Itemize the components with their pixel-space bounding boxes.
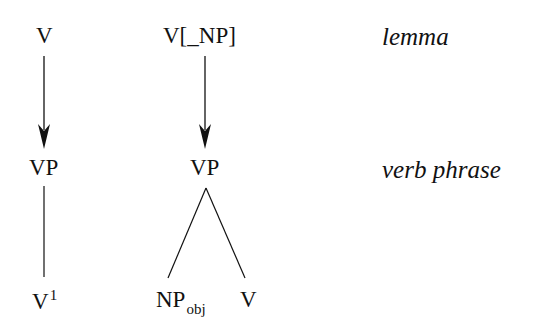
node-text: NP: [156, 287, 185, 312]
row-label-verb-phrase: verb phrase: [382, 157, 501, 182]
node-text: VP: [190, 155, 219, 180]
node-left-bottom: V1: [32, 288, 57, 313]
node-text: V: [32, 289, 49, 314]
node-superscript: 1: [50, 287, 58, 303]
node-mid-bottom-npobj: NPobj: [156, 288, 206, 317]
node-mid-bottom-v: V: [240, 288, 257, 311]
node-text: V: [36, 23, 53, 48]
node-text: VP: [29, 155, 58, 180]
node-left-middle: VP: [29, 156, 58, 179]
node-mid-top: V[_NP]: [163, 24, 236, 47]
node-text: V[_NP]: [163, 23, 236, 48]
row-label-lemma: lemma: [382, 24, 449, 49]
node-mid-middle: VP: [190, 156, 219, 179]
edge-vp-to-v: [206, 188, 245, 278]
node-text: V: [240, 287, 257, 312]
node-subscript: obj: [186, 301, 205, 317]
node-left-top: V: [36, 24, 53, 47]
edge-vp-to-npobj: [168, 188, 206, 278]
